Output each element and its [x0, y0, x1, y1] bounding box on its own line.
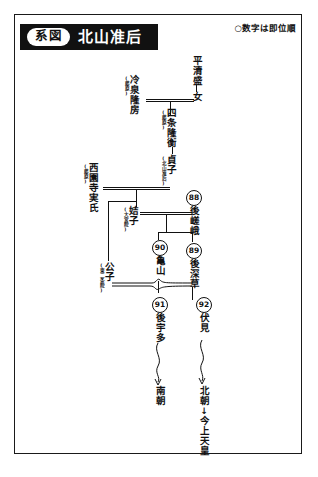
- down-arrow-icon: ↓: [199, 406, 209, 416]
- node-musume: 女: [192, 92, 202, 102]
- node-hokucho: 北朝: [199, 386, 209, 406]
- node-kinjo-tenno: 今上天皇: [199, 416, 209, 456]
- line-saneuji-children-bar: [108, 201, 136, 202]
- node-shijo-takahira: 四条隆衡: [166, 108, 176, 148]
- node-kameyama: 亀山: [155, 256, 165, 276]
- title-tag-label: 系図: [27, 28, 70, 46]
- reign-number-gofukakusa: 89: [186, 243, 202, 259]
- node-label: 姞子: [128, 206, 139, 226]
- node-label: 平清盛: [192, 56, 203, 86]
- node-kinshi: 公子: [104, 262, 114, 282]
- node-label: 貞子: [166, 155, 177, 175]
- node-label: 南朝: [155, 386, 166, 406]
- node-label: 冷泉隆房: [129, 75, 140, 115]
- reign-number-kameyama: 90: [152, 240, 168, 256]
- node-label: 女: [192, 92, 203, 102]
- annot-saionji-saneuji: (藤原): [82, 164, 87, 184]
- line-kameyama-descent: [158, 281, 159, 293]
- node-label: 公子: [104, 262, 115, 282]
- legend-note: ○数字は即位順: [235, 24, 296, 33]
- line-to-kinshi: [108, 201, 109, 261]
- annot-kinshi: (東二条院): [98, 263, 103, 293]
- node-label: 伏見: [199, 313, 210, 333]
- line-saneuji-children-stem: [136, 189, 137, 201]
- reign-number-gosaga: 88: [186, 190, 202, 206]
- node-nancho: 南朝: [155, 386, 165, 406]
- node-taira-kiyomori: 平清盛: [192, 56, 202, 86]
- line-gosaga-children-bar: [158, 232, 192, 233]
- line-to-kameyama: [158, 232, 159, 240]
- reign-number-fushimi: 92: [196, 297, 212, 313]
- node-label: 西園寺実氏: [88, 163, 99, 213]
- title-banner: 系図 北山准后: [20, 24, 158, 50]
- node-gosaga: 後嵯峨: [189, 206, 199, 236]
- annot-kitsushi: (大宮院): [122, 207, 127, 232]
- node-label: 亀山: [155, 256, 166, 276]
- page-title: 北山准后: [78, 30, 142, 45]
- line-gosaga-children-stem: [166, 214, 167, 232]
- node-fushimi: 伏見: [199, 313, 209, 333]
- annot-teishi: (北山准后): [160, 156, 165, 186]
- node-gouda: 後宇多: [155, 313, 165, 343]
- node-teishi: 貞子: [166, 155, 176, 175]
- node-kitsushi: 姞子: [128, 206, 138, 226]
- node-gofukakusa: 後深草: [189, 259, 199, 289]
- node-label: 後深草: [189, 259, 200, 289]
- node-saionji-saneuji: 西園寺実氏: [88, 163, 98, 213]
- annot-reizei-takafusa: (藤原): [123, 76, 128, 96]
- line-kiyomori-musume: [196, 85, 197, 92]
- line-takahira-teishi: [172, 147, 173, 154]
- node-label: 今上天皇: [199, 416, 210, 456]
- node-label: 北朝: [199, 386, 210, 406]
- node-reizei-takafusa: 冷泉隆房: [129, 75, 139, 115]
- annot-shijo-takahira: (藤原): [160, 110, 165, 130]
- node-label: 後宇多: [155, 313, 166, 343]
- genealogy-chart-page: 系図 北山准后 ○数字は即位順: [0, 0, 318, 477]
- node-label: 後嵯峨: [189, 206, 200, 236]
- node-label: 四条隆衡: [166, 108, 177, 148]
- reign-number-gouda: 91: [152, 297, 168, 313]
- arrow-hokucho-to-kinjo: ↓: [199, 406, 208, 416]
